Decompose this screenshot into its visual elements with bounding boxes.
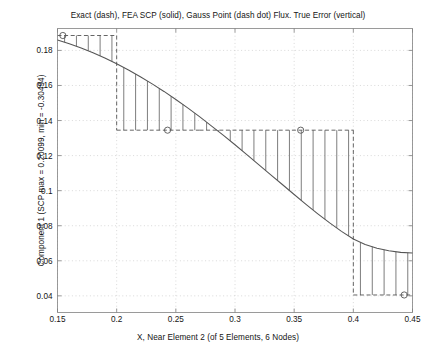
y-tick-label: 0.12	[13, 151, 53, 160]
chart-svg	[0, 0, 436, 353]
y-tick-label: 0.06	[13, 256, 53, 265]
y-tick-label: 0.16	[13, 81, 53, 90]
y-tick-label: 0.1	[13, 186, 53, 195]
y-tick-label: 0.14	[13, 116, 53, 125]
x-tick-label: 0.2	[97, 315, 137, 324]
x-tick-label: 0.4	[333, 315, 373, 324]
error-bars	[65, 36, 408, 295]
x-tick-label: 0.45	[393, 315, 433, 324]
y-tick-label: 0.08	[13, 221, 53, 230]
y-tick-label: 0.18	[13, 46, 53, 55]
x-tick-label: 0.35	[274, 315, 314, 324]
x-tick-label: 0.3	[215, 315, 255, 324]
plot-canvas	[0, 0, 436, 353]
figure-container: Exact (dash), FEA SCP (solid), Gauss Poi…	[0, 0, 436, 353]
x-tick-label: 0.15	[38, 315, 78, 324]
gauss-point-markers	[60, 32, 408, 298]
x-tick-label: 0.25	[156, 315, 196, 324]
y-tick-label: 0.04	[13, 291, 53, 300]
grid-lines	[58, 29, 413, 313]
